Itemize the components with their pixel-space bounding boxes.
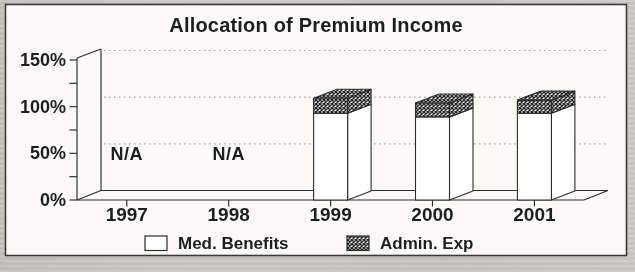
bar-2001-front-admin xyxy=(517,100,551,113)
y-tick-label-0%: 0% xyxy=(40,190,66,210)
bar-2001-side-med xyxy=(551,104,575,200)
category-label-1998: 1998 xyxy=(208,204,250,225)
legend-swatch-admin-exp xyxy=(347,236,369,251)
na-label-1997: N/A xyxy=(111,144,144,164)
legend-swatch-med-benefits xyxy=(145,236,167,251)
category-label-2001: 2001 xyxy=(513,204,556,225)
chart-title: Allocation of Premium Income xyxy=(169,14,462,36)
y-tick-label-150%: 150% xyxy=(20,50,66,70)
category-label-1999: 1999 xyxy=(309,204,351,225)
bar-1999-front-med xyxy=(314,113,348,200)
bar-2000-front-admin xyxy=(416,103,450,117)
bar-1999-front-admin xyxy=(314,98,348,113)
na-label-1998: N/A xyxy=(212,144,245,164)
legend-label-med-benefits: Med. Benefits xyxy=(178,234,289,253)
allocation-chart: Allocation of Premium Income 0%50%100%15… xyxy=(0,0,635,272)
legend-label-admin-exp: Admin. Exp xyxy=(380,234,474,253)
category-label-1997: 1997 xyxy=(106,204,148,225)
category-label-2000: 2000 xyxy=(411,204,453,225)
bar-1999-side-med xyxy=(348,104,372,200)
y-tick-label-100%: 100% xyxy=(20,97,66,117)
bar-2000-front-med xyxy=(416,117,450,200)
bar-2000-side-med xyxy=(450,108,474,200)
y-tick-label-50%: 50% xyxy=(30,143,66,163)
bar-2001-front-med xyxy=(517,113,551,200)
